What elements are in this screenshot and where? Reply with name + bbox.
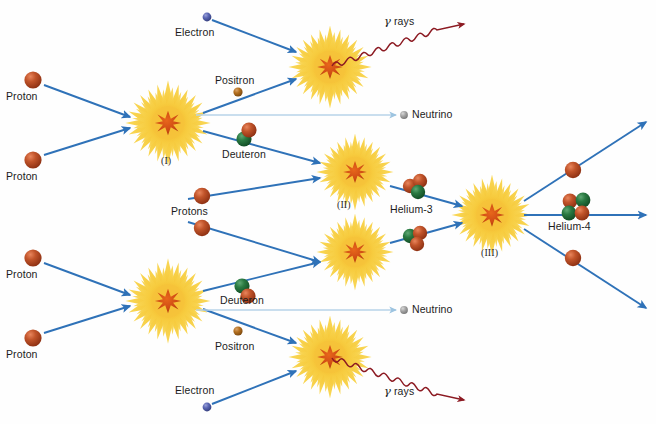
label-protons-middle: Protons — [171, 205, 208, 217]
burst-stage-3 — [451, 174, 532, 255]
label-helium-3: Helium-3 — [390, 203, 433, 215]
label-positron-bottom: Positron — [215, 340, 254, 352]
label-neutrino-top: Neutrino — [412, 108, 453, 120]
arrow-proton-bottom2-to-stage1 — [44, 306, 130, 333]
figure-canvas: Proton Proton Proton Proton Protons Elec… — [0, 0, 656, 424]
gamma-symbol-top: γ — [384, 14, 391, 28]
arrow-proton-bottom1-to-stage1 — [44, 263, 130, 295]
arrow-output-proton-up — [524, 122, 646, 201]
arrow-deuteron-bottom-to-stage2 — [203, 262, 320, 291]
burst-stage-2-top — [317, 134, 394, 211]
particle-proton-bottom-1 — [24, 249, 41, 266]
label-gamma-rays-top: γ rays — [384, 14, 414, 28]
gamma-rays-text-bottom: rays — [394, 385, 414, 397]
particle-electron-bottom — [203, 403, 212, 412]
burst-stage-2-bottom — [317, 214, 394, 291]
label-positron-top: Positron — [215, 74, 254, 86]
particle-neutrino-bottom — [400, 306, 408, 314]
burst-stage-1-top — [125, 80, 210, 165]
particle-proton-top-2 — [24, 151, 41, 168]
label-electron-top: Electron — [175, 26, 214, 38]
particle-protons-middle-2 — [194, 220, 210, 236]
diagram-graphics — [0, 0, 656, 424]
particle-output-proton-up — [565, 162, 581, 178]
nucleus-helium3-top — [403, 174, 427, 199]
arrow-electron-top-to-burst — [212, 20, 296, 52]
label-deuteron-top: Deuteron — [222, 148, 266, 160]
gamma-symbol-bottom: γ — [384, 384, 391, 398]
particle-output-proton-down — [565, 250, 581, 266]
nucleus-helium4 — [562, 193, 591, 221]
arrow-positron-bottom-to-burst — [203, 309, 296, 343]
label-neutrino-bottom: Neutrino — [412, 303, 453, 315]
nucleus-helium3-bottom — [403, 226, 427, 251]
gamma-rays-text-top: rays — [394, 15, 414, 27]
particle-electron-top — [203, 13, 212, 22]
arrow-proton-top2-to-stage1 — [44, 128, 130, 155]
label-electron-bottom: Electron — [175, 384, 214, 396]
label-stage-1: (I) — [161, 155, 171, 166]
label-proton-bottom-2: Proton — [6, 348, 38, 360]
label-helium-4: Helium-4 — [548, 220, 591, 232]
label-stage-2: (II) — [337, 199, 351, 210]
label-proton-top-1: Proton — [6, 90, 38, 102]
label-stage-3: (III) — [481, 247, 498, 258]
arrow-output-proton-down — [524, 229, 646, 308]
burst-gamma-top — [288, 25, 371, 108]
particle-positron-top — [233, 87, 242, 96]
label-gamma-rays-bottom: γ rays — [384, 384, 414, 398]
label-deuteron-bottom: Deuteron — [220, 294, 264, 306]
label-proton-bottom-1: Proton — [6, 268, 38, 280]
burst-stage-1-bottom — [125, 258, 210, 343]
nucleus-deuteron-top — [236, 122, 256, 146]
arrow-electron-bottom-to-burst — [212, 371, 296, 404]
particle-positron-bottom — [233, 326, 242, 335]
particle-proton-bottom-2 — [24, 329, 41, 346]
particle-proton-top-1 — [24, 71, 41, 88]
arrow-proton-top1-to-stage1 — [44, 85, 130, 117]
particle-protons-middle-1 — [194, 188, 210, 204]
label-proton-top-2: Proton — [6, 170, 38, 182]
burst-gamma-bottom — [288, 315, 371, 398]
particle-neutrino-top — [400, 111, 408, 119]
